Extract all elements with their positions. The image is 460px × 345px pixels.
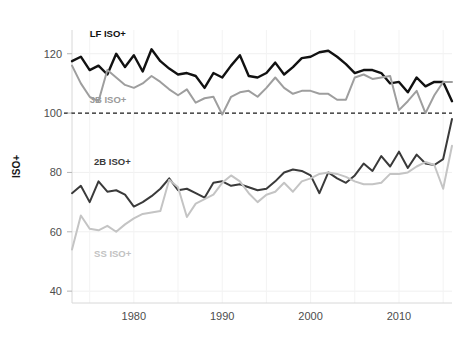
series-label-ss: SS ISO+ xyxy=(94,248,132,259)
y-axis-title: ISO+ xyxy=(11,155,22,178)
y-tick-label: 60 xyxy=(50,226,62,238)
series-label-3b: 3B ISO+ xyxy=(90,94,127,105)
chart-canvas: 4060801001201980199020002010ISO+LF ISO+3… xyxy=(0,0,460,345)
y-tick-label: 100 xyxy=(44,107,62,119)
y-tick-label: 40 xyxy=(50,285,62,297)
x-tick-label: 1980 xyxy=(122,310,146,322)
y-tick-label: 120 xyxy=(44,48,62,60)
x-tick-label: 1990 xyxy=(210,310,234,322)
x-tick-label: 2010 xyxy=(387,310,411,322)
y-tick-label: 80 xyxy=(50,166,62,178)
iso-plus-line-chart: 4060801001201980199020002010ISO+LF ISO+3… xyxy=(0,0,460,345)
x-tick-label: 2000 xyxy=(298,310,322,322)
series-label-lf: LF ISO+ xyxy=(90,28,127,39)
series-label-2b: 2B ISO+ xyxy=(94,156,131,167)
